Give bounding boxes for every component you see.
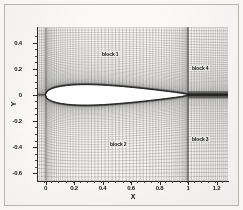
- y-tick-minor: [35, 154, 37, 155]
- x-tick-minor: [123, 181, 124, 183]
- y-tick-minor: [35, 127, 37, 128]
- y-tick-minor: [35, 82, 37, 83]
- x-tick-label: 0.2: [70, 185, 78, 191]
- x-tick-label: 1: [187, 185, 190, 191]
- block-label-3: block 3: [191, 136, 210, 142]
- block-label-1: block 1: [101, 51, 120, 57]
- plot-area: [37, 27, 228, 181]
- x-tick-minor: [180, 181, 181, 183]
- x-tick-minor: [222, 181, 223, 183]
- y-tick-minor: [35, 114, 37, 115]
- y-tick-minor: [35, 56, 37, 57]
- x-tick-minor: [87, 181, 88, 183]
- y-tick-minor: [35, 160, 37, 161]
- y-tick-label: 0: [19, 92, 22, 98]
- x-tick-label: 1.2: [213, 185, 221, 191]
- x-tick-label: 0: [44, 185, 47, 191]
- y-tick-minor: [35, 141, 37, 142]
- x-tick-minor: [172, 181, 173, 183]
- y-tick-minor: [35, 49, 37, 50]
- cfd-mesh: [37, 27, 228, 181]
- y-tick: [33, 173, 37, 174]
- x-tick-minor: [137, 181, 138, 183]
- x-tick-minor: [58, 181, 59, 183]
- y-tick-minor: [35, 101, 37, 102]
- block-label-2: block 2: [109, 141, 128, 147]
- y-axis-title: Y: [10, 102, 17, 107]
- x-tick-minor: [201, 181, 202, 183]
- y-tick-label: -0.6: [12, 170, 22, 176]
- block-label-4: block 4: [191, 65, 210, 71]
- x-tick-minor: [115, 181, 116, 183]
- x-tick-minor: [194, 181, 195, 183]
- figure-frame: 00.20.40.60.811.20.40.20-0.2-0.4-0.6 X Y…: [4, 4, 239, 206]
- x-tick-minor: [73, 181, 74, 183]
- x-tick-minor: [187, 181, 188, 183]
- y-tick-minor: [35, 88, 37, 89]
- x-tick-minor: [144, 181, 145, 183]
- x-tick-minor: [158, 181, 159, 183]
- x-tick-minor: [94, 181, 95, 183]
- x-tick-minor: [51, 181, 52, 183]
- x-tick-minor: [215, 181, 216, 183]
- y-tick: [33, 43, 37, 44]
- y-tick-minor: [35, 167, 37, 168]
- y-tick-minor: [35, 108, 37, 109]
- x-tick-minor: [101, 181, 102, 183]
- y-tick-minor: [35, 62, 37, 63]
- y-tick: [33, 95, 37, 96]
- x-tick-label: 0.8: [156, 185, 164, 191]
- x-axis-title: X: [131, 193, 136, 200]
- y-tick-label: -0.4: [12, 144, 22, 150]
- y-tick-label: 0.2: [14, 66, 22, 72]
- y-tick-minor: [35, 36, 37, 37]
- x-tick-minor: [130, 181, 131, 183]
- x-tick-minor: [66, 181, 67, 183]
- x-tick-minor: [151, 181, 152, 183]
- figure-container: 00.20.40.60.811.20.40.20-0.2-0.4-0.6 X Y…: [0, 0, 243, 210]
- y-tick-minor: [35, 75, 37, 76]
- y-tick: [33, 147, 37, 148]
- x-tick-label: 0.4: [99, 185, 107, 191]
- x-tick-minor: [165, 181, 166, 183]
- y-tick-minor: [35, 134, 37, 135]
- y-tick: [33, 121, 37, 122]
- x-tick-label: 0.6: [127, 185, 135, 191]
- y-tick-label: -0.2: [12, 118, 22, 124]
- y-tick: [33, 69, 37, 70]
- x-tick-minor: [208, 181, 209, 183]
- y-axis-line: [37, 27, 38, 182]
- x-tick-minor: [44, 181, 45, 183]
- x-tick-minor: [108, 181, 109, 183]
- x-tick-minor: [80, 181, 81, 183]
- y-tick-label: 0.4: [14, 40, 22, 46]
